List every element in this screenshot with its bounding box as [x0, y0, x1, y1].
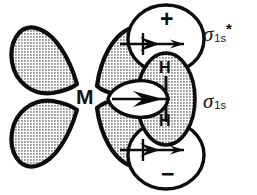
sigma-antibonding-star: *: [226, 21, 232, 36]
phase-sign-minus: −: [161, 163, 174, 186]
phase-sign-plus: +: [160, 8, 173, 31]
sigma-symbol: σ: [203, 91, 213, 112]
metal-center-label: M: [76, 86, 93, 107]
sigma-1s-bonding-label: σ 1s: [203, 91, 226, 112]
d-lobe-upper-left: [11, 27, 77, 93]
orbital-diagram: M σ 1s * σ 1s H H + −: [0, 0, 257, 195]
sigma-subscript: 1s: [213, 33, 226, 45]
sigma-symbol: σ: [203, 24, 213, 45]
sigma-1s-antibonding-label: σ 1s *: [203, 24, 232, 45]
d-lobe-lower-left: [11, 101, 77, 167]
sigma-subscript: 1s: [213, 100, 226, 112]
hydrogen-atom-bottom: H: [159, 113, 171, 129]
hydrogen-atom-top: H: [159, 60, 171, 76]
